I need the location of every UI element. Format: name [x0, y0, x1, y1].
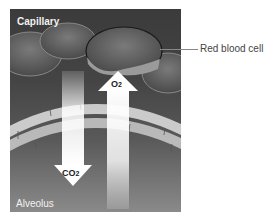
red-blood-cells — [10, 23, 181, 93]
o2-arrow — [98, 71, 138, 209]
red-blood-cell — [86, 27, 162, 75]
alveolus-label: Alveolus — [16, 198, 54, 209]
diagram-panel: Capillary Alveolus O2 CO2 — [10, 9, 181, 212]
capillary-label: Capillary — [17, 16, 59, 27]
alveolar-membrane — [10, 103, 181, 152]
co2-label: CO2 — [62, 168, 79, 178]
o2-label: O2 — [111, 79, 122, 89]
callout-leader-line — [160, 49, 198, 50]
red-blood-cell-label: Red blood cell — [200, 43, 263, 54]
diagram-graphic — [10, 9, 181, 212]
